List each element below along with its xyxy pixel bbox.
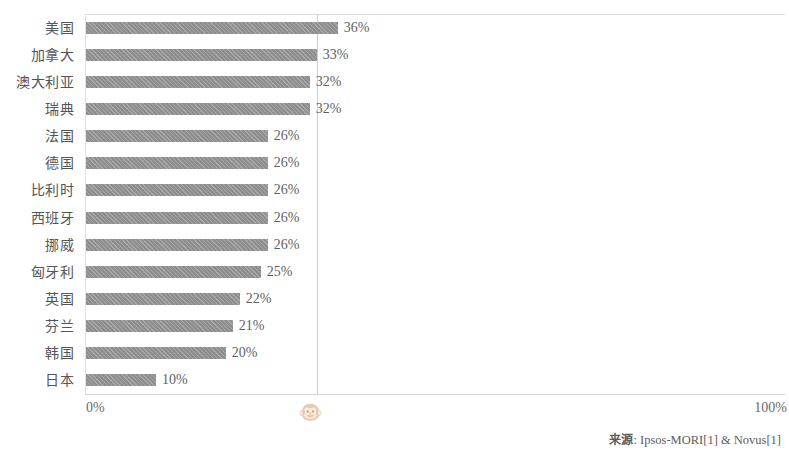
bar-value-label: 26%	[274, 238, 300, 252]
bar-row: 德国26%	[0, 150, 789, 177]
category-label: 法国	[0, 128, 74, 144]
bar	[86, 266, 261, 278]
bar-row: 美国36%	[0, 14, 789, 41]
bar-value-label: 32%	[316, 102, 342, 116]
bar-value-label: 10%	[162, 373, 188, 387]
bar	[86, 130, 268, 142]
bar-with-label: 20%	[86, 347, 257, 359]
bar-with-label: 36%	[86, 22, 369, 34]
bar-value-label: 36%	[344, 21, 370, 35]
bar-value-label: 26%	[274, 183, 300, 197]
source-label: 来源	[609, 433, 633, 447]
bar	[86, 320, 233, 332]
monkey-face-icon: 🐵	[296, 400, 324, 424]
bar-value-label: 20%	[232, 346, 258, 360]
category-label: 比利时	[0, 182, 74, 198]
bar-with-label: 26%	[86, 212, 299, 224]
bar-with-label: 26%	[86, 184, 299, 196]
bar-rows-container: 美国36%加拿大33%澳大利亚32%瑞典32%法国26%德国26%比利时26%西…	[0, 14, 789, 394]
category-label: 西班牙	[0, 210, 74, 226]
category-label: 韩国	[0, 345, 74, 361]
bar-row: 挪威26%	[0, 231, 789, 258]
bar-with-label: 32%	[86, 103, 341, 115]
bar	[86, 184, 268, 196]
bar-with-label: 26%	[86, 239, 299, 251]
bar-with-label: 33%	[86, 49, 348, 61]
category-label: 日本	[0, 372, 74, 388]
source-text: Ipsos-MORI[1] & Novus[1]	[640, 433, 781, 447]
category-label: 芬兰	[0, 318, 74, 334]
bar-value-label: 32%	[316, 75, 342, 89]
category-label: 瑞典	[0, 101, 74, 117]
bar-row: 法国26%	[0, 123, 789, 150]
category-label: 英国	[0, 291, 74, 307]
bar-with-label: 10%	[86, 374, 188, 386]
bar	[86, 212, 268, 224]
bar	[86, 157, 268, 169]
bar-with-label: 26%	[86, 130, 299, 142]
bar	[86, 374, 156, 386]
bar-value-label: 22%	[246, 292, 272, 306]
bar-row: 比利时26%	[0, 177, 789, 204]
bar-row: 瑞典32%	[0, 95, 789, 122]
bar-row: 日本10%	[0, 367, 789, 394]
category-label: 加拿大	[0, 47, 74, 63]
bar-with-label: 25%	[86, 266, 292, 278]
bar-value-label: 26%	[274, 211, 300, 225]
bar	[86, 49, 317, 61]
bar-row: 匈牙利25%	[0, 258, 789, 285]
bar-value-label: 33%	[323, 48, 349, 62]
bar-row: 韩国20%	[0, 340, 789, 367]
bar-with-label: 26%	[86, 157, 299, 169]
source-attribution: 来源: Ipsos-MORI[1] & Novus[1]	[609, 430, 781, 448]
bar-with-label: 22%	[86, 293, 271, 305]
category-label: 德国	[0, 155, 74, 171]
category-label: 澳大利亚	[0, 74, 74, 90]
bar-row: 英国22%	[0, 285, 789, 312]
bar-value-label: 26%	[274, 156, 300, 170]
bar-row: 澳大利亚32%	[0, 68, 789, 95]
category-label: 美国	[0, 20, 74, 36]
bar-row: 西班牙26%	[0, 204, 789, 231]
value-axis-line	[85, 394, 785, 395]
bar-with-label: 21%	[86, 320, 264, 332]
bar	[86, 293, 240, 305]
bar-row: 加拿大33%	[0, 41, 789, 68]
axis-min-label: 0%	[86, 400, 105, 416]
category-label: 匈牙利	[0, 264, 74, 280]
bar	[86, 103, 310, 115]
bar-row: 芬兰21%	[0, 313, 789, 340]
bar	[86, 239, 268, 251]
axis-max-label: 100%	[754, 400, 787, 416]
bar-value-label: 26%	[274, 129, 300, 143]
bar-value-label: 25%	[267, 265, 293, 279]
bar	[86, 22, 338, 34]
bar-chart: 美国36%加拿大33%澳大利亚32%瑞典32%法国26%德国26%比利时26%西…	[0, 0, 789, 451]
bar	[86, 76, 310, 88]
bar	[86, 347, 226, 359]
bar-value-label: 21%	[239, 319, 265, 333]
bar-with-label: 32%	[86, 76, 341, 88]
category-label: 挪威	[0, 237, 74, 253]
